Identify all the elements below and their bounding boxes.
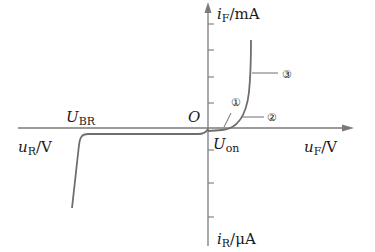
region-3-label: ③: [282, 68, 292, 81]
x-negative-axis-label: uR/V: [18, 138, 53, 158]
diode-iv-diagram: ① ② ③ iF/mA iR/μA uF/V uR/V O UBR Uon: [0, 0, 375, 252]
region-1-label: ①: [231, 96, 241, 109]
region-2-label: ②: [267, 111, 277, 124]
origin-label: O: [188, 108, 200, 126]
y-positive-axis-label: iF/mA: [217, 5, 260, 25]
breakdown-voltage-label: UBR: [66, 108, 96, 128]
y-negative-axis-label: iR/μA: [217, 230, 256, 250]
turn-on-voltage-label: Uon: [213, 135, 239, 155]
arrow-right-icon: [342, 125, 354, 132]
vertical-axis: [205, 2, 215, 246]
reverse-breakdown-curve: [72, 129, 208, 208]
leader-region-1: [224, 113, 231, 127]
arrow-up-icon: [205, 2, 212, 13]
x-positive-axis-label: uF/V: [304, 138, 338, 158]
